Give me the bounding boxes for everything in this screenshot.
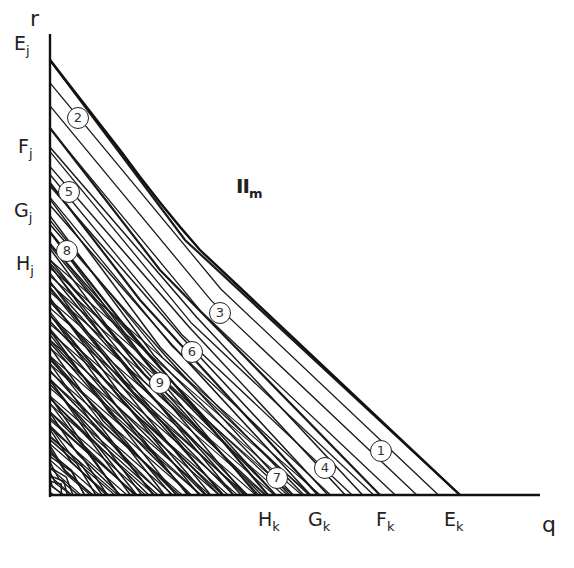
- y_axis_labels-Hj: Hj: [16, 254, 34, 277]
- label-sub: j: [26, 43, 30, 58]
- x_axis_labels-Fk: Fk: [376, 510, 394, 533]
- hatch-lines: [50, 60, 460, 495]
- label-base: E: [444, 508, 456, 530]
- label-sub: k: [456, 519, 464, 534]
- hatch-line: [50, 292, 283, 495]
- label-base: F: [18, 135, 29, 157]
- region-label-base: II: [236, 174, 249, 198]
- marker-1: 1: [370, 440, 392, 462]
- y_axis_labels-Fj: Fj: [18, 137, 33, 160]
- marker-6: 6: [181, 341, 203, 363]
- label-sub: j: [29, 210, 33, 225]
- hatched-region-diagram: [0, 0, 574, 568]
- q-axis-label: q: [542, 514, 556, 536]
- x_axis_labels-Hk: Hk: [258, 510, 280, 533]
- label-base: H: [258, 508, 272, 530]
- label-sub: k: [323, 519, 331, 534]
- y_axis_labels-Ej: Ej: [14, 34, 30, 57]
- y_axis_labels-Gj: Gj: [14, 201, 32, 224]
- label-base: G: [14, 199, 29, 221]
- label-base: G: [308, 508, 323, 530]
- label-sub: k: [272, 519, 280, 534]
- x_axis_labels-Gk: Gk: [308, 510, 330, 533]
- marker-8: 8: [56, 240, 78, 262]
- label-base: F: [376, 508, 387, 530]
- hatch-line: [50, 332, 237, 495]
- marker-9: 9: [149, 372, 171, 394]
- r-axis-label: r: [30, 8, 39, 30]
- marker-4: 4: [314, 457, 336, 479]
- region-label-sub: m: [249, 186, 262, 201]
- marker-3: 3: [209, 302, 231, 324]
- label-base: H: [16, 252, 30, 274]
- marker-7: 7: [266, 467, 288, 489]
- label-sub: j: [30, 263, 34, 278]
- marker-5: 5: [58, 181, 80, 203]
- x_axis_labels-Ek: Ek: [444, 510, 464, 533]
- marker-2: 2: [67, 107, 89, 129]
- label-sub: j: [29, 146, 33, 161]
- region-label-IIm: IIm: [236, 174, 261, 201]
- label-sub: k: [387, 519, 395, 534]
- label-base: E: [14, 32, 26, 54]
